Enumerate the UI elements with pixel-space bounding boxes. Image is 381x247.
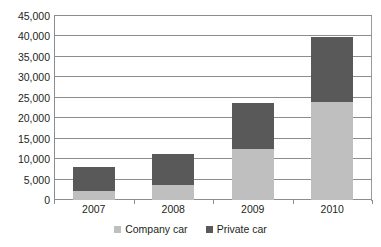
- bar-segment: [73, 191, 115, 200]
- bar-segment: [311, 102, 353, 200]
- square-swatch-icon: [114, 226, 121, 233]
- y-axis-tick-label: 15,000: [2, 134, 50, 145]
- x-axis-tick-mark: [372, 200, 373, 204]
- plot-area: [54, 16, 372, 200]
- legend-item[interactable]: Company car: [114, 224, 187, 235]
- y-axis-tick-label: 10,000: [2, 154, 50, 165]
- legend-item[interactable]: Private car: [206, 224, 267, 235]
- x-axis-tick-mark: [293, 200, 294, 204]
- y-axis-tick-label: 5,000: [2, 175, 50, 186]
- x-axis-labels: 2007200820092010: [54, 203, 372, 219]
- bars: [54, 16, 372, 200]
- y-axis-labels: 45,00040,00035,00030,00025,00020,00015,0…: [0, 0, 50, 247]
- x-axis-category-label: 2008: [133, 203, 213, 216]
- bar-segment: [152, 154, 194, 185]
- x-axis-tick-mark: [213, 200, 214, 204]
- y-axis-tick-label: 0: [2, 195, 50, 206]
- x-axis-category-label: 2009: [213, 203, 293, 216]
- legend-item-label: Company car: [125, 224, 187, 235]
- y-axis-tick-label: 45,000: [2, 11, 50, 22]
- square-swatch-icon: [206, 226, 213, 233]
- bar-segment: [73, 167, 115, 191]
- x-axis-tick-mark: [134, 200, 135, 204]
- bar-segment: [232, 103, 274, 149]
- y-axis-tick-label: 30,000: [2, 72, 50, 83]
- x-axis-tick-mark: [54, 200, 55, 204]
- y-axis-tick-label: 20,000: [2, 113, 50, 124]
- bar-segment: [311, 37, 353, 102]
- bar-segment: [152, 185, 194, 200]
- x-axis-category-label: 2007: [54, 203, 134, 216]
- y-axis-tick-label: 35,000: [2, 52, 50, 63]
- chart-legend: Company carPrivate car: [0, 224, 381, 235]
- y-axis-tick-label: 25,000: [2, 93, 50, 104]
- y-axis-tick-label: 40,000: [2, 31, 50, 42]
- bar-segment: [232, 149, 274, 200]
- stacked-bar-chart: 45,00040,00035,00030,00025,00020,00015,0…: [0, 0, 381, 247]
- legend-item-label: Private car: [217, 224, 267, 235]
- x-axis-category-label: 2010: [292, 203, 372, 216]
